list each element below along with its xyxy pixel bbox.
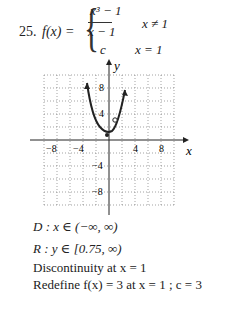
parabola (87, 83, 125, 132)
x-tick: −8 (46, 143, 57, 154)
y-axis-label: y (112, 58, 120, 73)
vertex-point (105, 133, 109, 137)
open-point (113, 118, 117, 122)
y-tick: 4 (99, 108, 104, 119)
redefine: Redefine f(x) = 3 at x = 1 ; c = 3 (33, 277, 202, 293)
range: R : y ∈ [0.75, ∞) (33, 241, 122, 257)
domain: D : x ∈ (−∞, ∞) (33, 219, 118, 235)
discontinuity: Discontinuity at x = 1 (33, 260, 147, 276)
x-tick: 4 (133, 143, 138, 154)
y-tick: −4 (92, 160, 103, 171)
x-axis-label: x (185, 143, 192, 158)
x-tick: 8 (159, 143, 164, 154)
y-tick: 8 (99, 82, 104, 93)
y-tick: −8 (92, 186, 103, 197)
x-tick: −4 (73, 143, 84, 154)
